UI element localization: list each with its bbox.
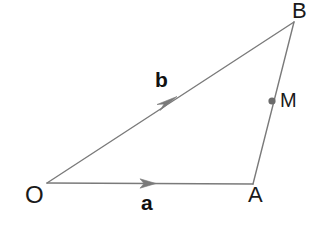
vector-label-a: a [141,192,153,213]
point-label-A: A [248,184,263,206]
vector-triangle-diagram: O A B M a b [0,0,333,233]
segment-OB [47,22,294,183]
arrowhead-vector-b [157,97,177,111]
point-marker-M [268,97,275,104]
point-label-O: O [25,183,44,207]
point-label-B: B [292,0,307,22]
point-label-M: M [280,90,297,110]
geometry-canvas [0,0,333,233]
vector-label-b: b [155,69,168,90]
